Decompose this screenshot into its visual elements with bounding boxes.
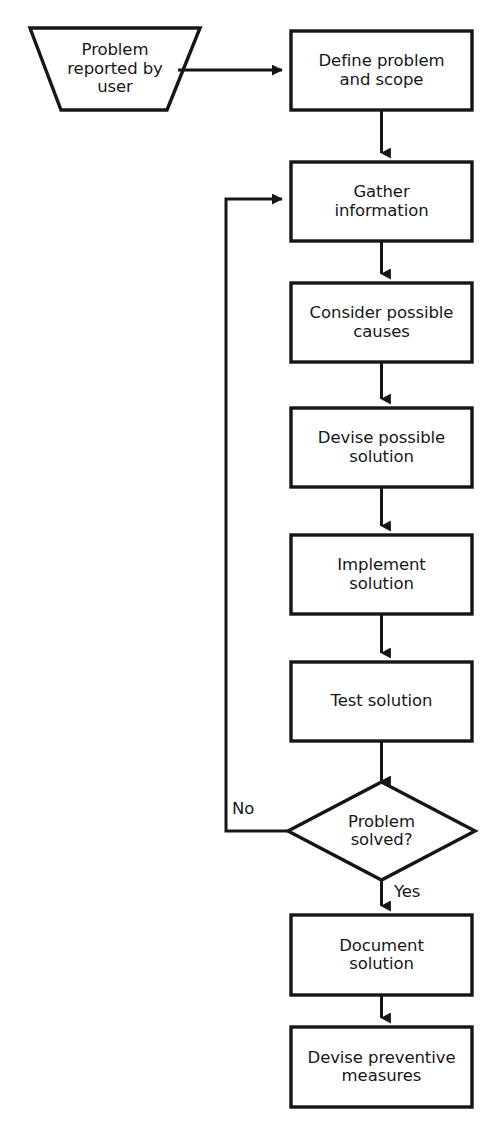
node-shape-devise-preventive: [291, 1027, 472, 1107]
node-shape-problem-reported: [30, 28, 200, 110]
node-shape-problem-solved: [288, 782, 475, 880]
flowchart-canvas: Problem reported by user Define problem …: [0, 0, 500, 1131]
edge-decision-no-loop: [226, 199, 288, 831]
node-shape-test-solution: [291, 662, 472, 741]
node-shape-consider-causes: [291, 283, 472, 362]
node-shape-implement-solution: [291, 535, 472, 614]
node-shape-devise-solution: [291, 408, 472, 487]
node-shape-gather-information: [291, 162, 472, 241]
node-shape-define-problem: [291, 31, 472, 110]
flowchart-graphics: [0, 0, 500, 1131]
node-shape-document-solution: [291, 915, 472, 995]
